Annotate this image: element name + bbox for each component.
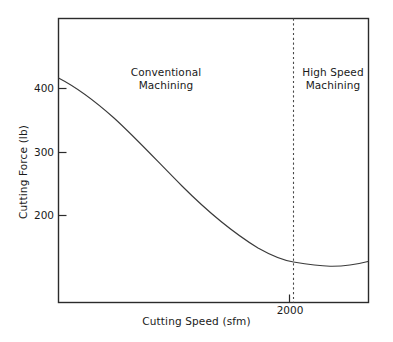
plot-canvas: [0, 0, 393, 342]
chart-figure: 400 300 200 2000 Cutting Speed (sfm) Cut…: [0, 0, 393, 342]
region-label-high-speed-machining: High Speed Machining: [297, 66, 369, 91]
region-label-conventional-line2: Machining: [108, 79, 224, 92]
region-label-high-speed-line1: High Speed: [297, 66, 369, 79]
region-label-conventional-line1: Conventional: [108, 66, 224, 79]
plot-frame: [59, 19, 369, 303]
y-axis-title: Cutting Force (lb): [17, 87, 29, 257]
region-label-conventional-machining: Conventional Machining: [108, 66, 224, 91]
region-label-high-speed-line2: Machining: [297, 79, 369, 92]
x-axis-title: Cutting Speed (sfm): [0, 315, 393, 327]
